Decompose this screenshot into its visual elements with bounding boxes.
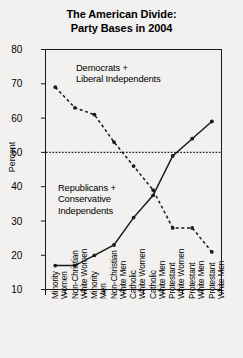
x-tick-label-4-line-2: White Women bbox=[139, 249, 148, 299]
x-tick-label-8: Protestant White Men bbox=[208, 261, 227, 299]
annotation-republicans: Republicans + Conservative Independents bbox=[58, 182, 116, 216]
x-tick-label-0-line-2: Women bbox=[60, 271, 69, 299]
x-tick-label-5: Catholic White Men bbox=[149, 261, 168, 299]
annotation-republicans-line-2: Conservative bbox=[58, 193, 116, 204]
annotation-democrats-line-2: Liberal Independents bbox=[76, 73, 161, 84]
annotation-republicans-line-3: Independents bbox=[58, 205, 116, 216]
plot-area bbox=[0, 0, 243, 358]
x-tick-label-1-line-2: White Women bbox=[80, 249, 89, 299]
x-tick-label-2-line-2: Men bbox=[99, 271, 108, 299]
y-axis-ticks bbox=[41, 50, 46, 290]
x-tick-label-4: Catholic White Women bbox=[129, 249, 148, 299]
series-democrats-line bbox=[55, 87, 212, 252]
x-tick-label-1: Non-Christian White Women bbox=[71, 249, 90, 299]
x-tick-label-0: Minority Women bbox=[51, 271, 70, 299]
x-tick-label-5-line-2: White Men bbox=[158, 261, 167, 299]
x-tick-label-3: Non-Christian White Men bbox=[110, 250, 129, 299]
x-tick-label-3-line-2: White Men bbox=[119, 250, 128, 299]
annotation-democrats-line-1: Democrats + bbox=[76, 62, 161, 73]
annotation-republicans-line-1: Republicans + bbox=[58, 182, 116, 193]
x-tick-label-6: Protestant White Women bbox=[168, 249, 187, 299]
x-tick-label-6-line-2: White Women bbox=[178, 249, 187, 299]
chart-figure: The American Divide: Party Bases in 2004… bbox=[0, 0, 243, 358]
x-tick-label-8-line-2: White Men bbox=[217, 261, 226, 299]
annotation-democrats: Democrats + Liberal Independents bbox=[76, 62, 161, 85]
x-tick-label-7: Protestant White Men bbox=[188, 261, 207, 299]
x-tick-label-7-line-2: White Men bbox=[197, 261, 206, 299]
x-tick-label-2: Minority Men bbox=[90, 271, 109, 299]
